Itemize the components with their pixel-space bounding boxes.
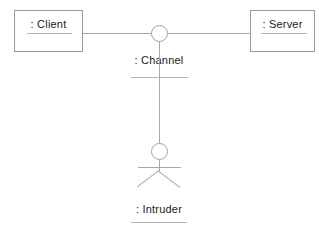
node-client-label: : Client — [15, 18, 82, 30]
connection-client-channel — [83, 33, 151, 34]
node-server-label-underline — [261, 33, 307, 34]
node-intruder-leg-left — [137, 170, 159, 187]
node-server[interactable]: : Server — [250, 10, 315, 52]
connection-channel-intruder — [159, 42, 160, 143]
node-client[interactable]: : Client — [14, 10, 83, 52]
node-intruder-label: : Intruder — [109, 203, 209, 215]
node-intruder-label-underline — [131, 222, 187, 223]
node-client-label-underline — [27, 33, 72, 34]
node-intruder-arms — [138, 167, 181, 168]
node-channel-circle[interactable] — [151, 25, 168, 42]
diagram-canvas: : Client : Server : Channel : Intruder — [0, 0, 319, 228]
node-intruder-leg-right — [158, 171, 180, 188]
connection-channel-server — [168, 33, 250, 34]
node-intruder-head-icon[interactable] — [151, 143, 168, 160]
node-server-label: : Server — [251, 18, 314, 30]
